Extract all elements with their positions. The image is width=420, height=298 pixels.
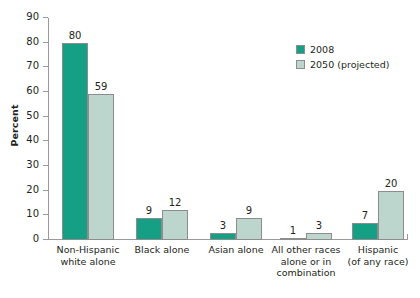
category-label-line: combination	[261, 267, 351, 279]
legend-swatch-icon	[296, 45, 305, 54]
bar-group: 8059	[62, 18, 114, 240]
bar: 9	[136, 218, 162, 240]
y-axis-tick: 90	[43, 17, 48, 18]
x-axis-category-label: Hispanic(of any race)	[333, 244, 420, 267]
legend-item-2008: 2008	[296, 44, 389, 55]
y-axis-tick-label: 60	[5, 84, 39, 97]
bar-group: 912	[136, 18, 188, 240]
y-axis-tick-label: 80	[5, 35, 39, 48]
y-axis-tick: 60	[43, 91, 48, 92]
bar: 20	[378, 191, 404, 240]
y-axis-title: Percent	[9, 91, 20, 161]
bar-value-label: 59	[95, 81, 108, 93]
y-axis-tick-label: 50	[5, 109, 39, 122]
y-axis-tick: 0	[43, 239, 48, 240]
bar: 59	[88, 94, 114, 240]
y-axis-tick-label: 30	[5, 158, 39, 171]
bar: 9	[236, 218, 262, 240]
y-axis-tick: 50	[43, 116, 48, 117]
y-axis-tick-label: 10	[5, 207, 39, 220]
bar: 3	[210, 233, 236, 240]
bar: 80	[62, 43, 88, 240]
bar: 3	[306, 233, 332, 240]
bar-value-label: 9	[146, 205, 152, 217]
y-axis-tick-label: 20	[5, 183, 39, 196]
bar: 7	[352, 223, 378, 240]
chart-legend: 2008 2050 (projected)	[296, 44, 389, 74]
y-axis-tick-label: 70	[5, 59, 39, 72]
bar: 12	[162, 210, 188, 240]
category-label-line: Hispanic	[333, 244, 420, 256]
bar-chart: Percent 9080706050403020100 805991239137…	[0, 0, 420, 298]
legend-label: 2008	[310, 44, 334, 55]
y-axis-tick-label: 0	[5, 232, 39, 245]
legend-item-2050-projected: 2050 (projected)	[296, 59, 389, 70]
category-label-line: (of any race)	[333, 256, 420, 268]
bar-group: 39	[210, 18, 262, 240]
bar-value-label: 12	[169, 197, 182, 209]
bar-value-label: 7	[362, 210, 368, 222]
bar-value-label: 1	[290, 225, 296, 237]
y-axis-tick: 20	[43, 190, 48, 191]
legend-swatch-icon	[296, 60, 305, 69]
bar-value-label: 80	[69, 30, 82, 42]
bar-value-label: 9	[246, 205, 252, 217]
y-axis-tick-label: 90	[5, 10, 39, 23]
x-axis-right-cap	[407, 234, 408, 240]
bar-value-label: 3	[220, 220, 226, 232]
y-axis-tick: 40	[43, 140, 48, 141]
y-axis-tick: 10	[43, 214, 48, 215]
category-label-line: white alone	[43, 256, 133, 268]
y-axis-tick: 30	[43, 165, 48, 166]
y-axis-line	[48, 18, 49, 240]
bar-value-label: 3	[316, 220, 322, 232]
bar: 1	[280, 238, 306, 240]
bar-value-label: 20	[385, 178, 398, 190]
y-axis-tick: 70	[43, 66, 48, 67]
legend-label: 2050 (projected)	[310, 59, 389, 70]
y-axis-tick-label: 40	[5, 133, 39, 146]
y-axis-tick: 80	[43, 42, 48, 43]
